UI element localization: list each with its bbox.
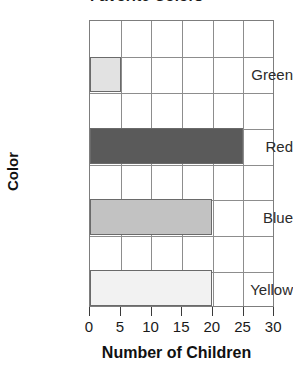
gridline-vertical	[213, 21, 214, 306]
x-tick-mark	[243, 307, 244, 316]
x-tick-mark	[89, 307, 90, 316]
x-tick-mark	[212, 307, 213, 316]
gridline-vertical	[182, 21, 183, 306]
y-tick-label-yellow: Yellow	[209, 281, 293, 298]
plot-area	[89, 20, 274, 307]
x-tick-mark	[151, 307, 152, 316]
y-tick-label-red: Red	[209, 137, 293, 154]
y-axis-label: Color	[4, 142, 21, 202]
y-tick-label-green: Green	[209, 65, 293, 82]
chart-title: Favorite Colors	[0, 0, 293, 4]
gridline-vertical	[121, 21, 122, 306]
x-tick-mark	[181, 307, 182, 316]
bar-chart: Favorite Colors Green Red Blue Yellow Co…	[0, 0, 293, 380]
y-tick-label-blue: Blue	[209, 209, 293, 226]
gridline-vertical	[151, 21, 152, 306]
bar-blue	[90, 199, 212, 235]
gridline-vertical	[243, 21, 244, 306]
x-tick-mark	[273, 307, 274, 316]
gridline-horizontal	[90, 236, 273, 237]
x-axis-label: Number of Children	[60, 344, 293, 362]
x-tick-label-30: 30	[253, 318, 293, 335]
gridline-horizontal	[90, 93, 273, 94]
x-tick-mark	[120, 307, 121, 316]
gridline-horizontal	[90, 165, 273, 166]
bar-green	[90, 57, 121, 93]
bar-yellow	[90, 270, 212, 306]
